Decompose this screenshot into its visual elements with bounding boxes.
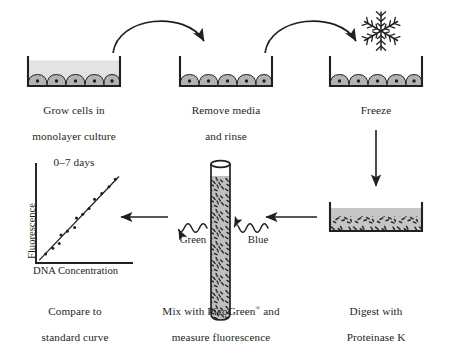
chart-point <box>60 234 63 237</box>
caption-mix-picogreen: Mix with PicoGreen® and measure fluoresc… <box>146 292 296 345</box>
curved-arrow-remove-to-freeze <box>265 21 356 53</box>
chart-y-axis-label: Fluorescence <box>26 203 37 259</box>
caption-curve-line-2: standard curve <box>8 331 142 344</box>
caption-mix-line-1: Mix with PicoGreen® and <box>146 305 296 318</box>
culture-dish-grow <box>28 57 120 86</box>
caption-digest: Digest with Proteinase K <box>314 292 438 345</box>
culture-dish-digest <box>330 203 422 231</box>
caption-remove-line-2: and rinse <box>164 130 288 143</box>
culture-dish-remove-media <box>180 57 272 86</box>
lysate-upper-fill <box>330 208 422 217</box>
caption-grow-line-2: monolayer culture <box>12 130 136 143</box>
wave-green-emission <box>179 224 207 233</box>
chart-point <box>93 198 96 201</box>
wave-label-green: Green <box>170 233 216 245</box>
snowflake-icon <box>362 12 400 50</box>
chart-fit-line <box>39 176 119 260</box>
caption-grow-line-3: 0–7 days <box>12 156 136 169</box>
curved-arrow-grow-to-remove <box>113 21 204 53</box>
caption-grow-cells: Grow cells in monolayer culture 0–7 days <box>12 91 136 182</box>
caption-curve-line-1: Compare to <box>8 305 142 318</box>
chart-x-axis-label: DNA Concentration <box>33 265 118 276</box>
chart-point <box>58 242 61 245</box>
chart-point <box>51 247 54 250</box>
wave-label-blue: Blue <box>238 233 278 245</box>
cell-monolayer-3 <box>330 75 422 86</box>
caption-standard-curve: Compare to standard curve <box>8 292 142 345</box>
caption-digest-line-2: Proteinase K <box>314 331 438 344</box>
chart-point <box>66 230 69 233</box>
tube-mouth <box>211 161 230 168</box>
caption-freeze: Freeze <box>314 91 438 130</box>
lysate-debris-fill <box>330 216 422 230</box>
culture-dish-freeze <box>330 57 422 86</box>
caption-freeze-line-1: Freeze <box>314 104 438 117</box>
chart-point <box>107 185 110 188</box>
chart-point <box>73 226 76 229</box>
caption-digest-line-1: Digest with <box>314 305 438 318</box>
chart-point <box>100 192 103 195</box>
chart-point <box>88 207 91 210</box>
chart-point <box>75 217 78 220</box>
caption-remove-media: Remove media and rinse <box>164 91 288 156</box>
chart-point <box>44 252 47 255</box>
caption-remove-line-1: Remove media <box>164 104 288 117</box>
cell-monolayer-1 <box>28 75 120 86</box>
cell-monolayer-2 <box>180 75 272 86</box>
caption-grow-line-1: Grow cells in <box>12 104 136 117</box>
caption-mix-line-2: measure fluorescence <box>146 331 296 344</box>
wave-blue-excitation <box>234 224 268 233</box>
chart-point <box>81 213 84 216</box>
